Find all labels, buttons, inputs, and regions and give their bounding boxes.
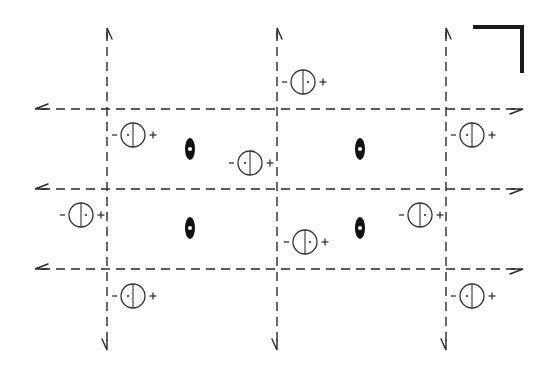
dot-icon [127,134,129,136]
dot-icon [309,241,311,243]
dot-icon [127,295,129,297]
half-arrow-left-icon [35,104,48,109]
diagram-canvas [0,0,551,377]
half-arrow-down-icon [272,339,277,350]
horizontal-glide-line [35,104,523,114]
horizontal-glide-line [35,264,523,274]
circle-symbol [282,70,327,94]
dot-icon [424,214,426,216]
dot-icon [85,214,87,216]
twofold-axis-icon [355,138,365,160]
circle-symbol [229,151,274,175]
half-arrow-down-icon [102,339,107,350]
dot-icon [244,162,246,164]
circle-symbol [112,284,157,308]
circle-symbol [451,284,496,308]
dot-icon [307,81,309,83]
half-arrow-down-icon [441,339,446,350]
twofold-axis-icon [185,138,195,160]
half-arrow-up-icon [446,28,451,39]
circle-symbol [60,203,105,227]
dot-icon [466,295,468,297]
dot-icon [466,134,468,136]
half-arrow-right-icon [510,189,523,194]
circle-symbols [60,70,496,308]
circle-symbol [284,230,329,254]
circle-symbol [112,123,157,147]
circle-symbol [451,123,496,147]
horizontal-glide-lines [35,104,523,274]
twofold-axis-icon [185,217,195,239]
circle-symbol [399,203,444,227]
horizontal-glide-line [35,184,523,194]
corner-mark [473,27,522,73]
half-arrow-up-icon [107,28,112,39]
symmetry-diagram [0,0,551,377]
half-arrow-left-icon [35,264,48,269]
twofold-axis-icon [355,217,365,239]
half-arrow-left-icon [35,184,48,189]
half-arrow-right-icon [510,269,523,274]
half-arrow-right-icon [510,109,523,114]
half-arrow-up-icon [277,28,282,39]
corner-l-icon [473,27,522,73]
